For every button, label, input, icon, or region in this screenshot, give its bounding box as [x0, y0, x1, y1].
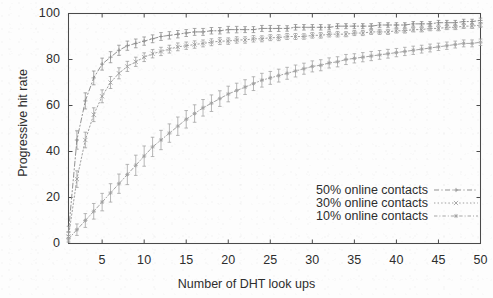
- legend-line-sample: [434, 211, 478, 221]
- figure-canvas: Progressive hit rate Number of DHT look …: [0, 0, 493, 298]
- x-tick-label: 50: [461, 253, 493, 267]
- y-tick-label: 40: [14, 144, 60, 158]
- x-tick-label: 40: [376, 253, 416, 267]
- x-tick-label: 30: [292, 253, 332, 267]
- x-axis-label: Number of DHT look ups: [0, 277, 493, 291]
- y-tick-label: 60: [14, 98, 60, 112]
- y-tick-label: 0: [14, 236, 60, 250]
- chart-legend: 50% online contacts30% online contacts10…: [316, 183, 476, 222]
- x-tick-label: 20: [208, 253, 248, 267]
- legend-label: 10% online contacts: [316, 209, 428, 223]
- legend-item[interactable]: 50% online contacts: [316, 183, 476, 196]
- x-tick-label: 45: [418, 253, 458, 267]
- y-tick-label: 80: [14, 52, 60, 66]
- x-tick-label: 15: [166, 253, 206, 267]
- x-tick-label: 35: [334, 253, 374, 267]
- x-tick-label: 25: [250, 253, 290, 267]
- y-tick-label: 100: [14, 6, 60, 20]
- legend-line-sample: [434, 185, 478, 195]
- legend-line-sample: [434, 198, 478, 208]
- legend-label: 50% online contacts: [316, 183, 428, 197]
- legend-item[interactable]: 10% online contacts: [316, 209, 476, 222]
- x-tick-label: 10: [124, 253, 164, 267]
- legend-label: 30% online contacts: [316, 196, 428, 210]
- x-tick-label: 5: [82, 253, 122, 267]
- legend-item[interactable]: 30% online contacts: [316, 196, 476, 209]
- y-tick-label: 20: [14, 190, 60, 204]
